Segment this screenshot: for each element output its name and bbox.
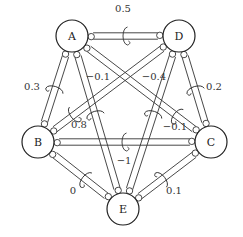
edge-C-E: 0.1 <box>135 150 198 201</box>
node-C: C <box>195 126 227 158</box>
edge-weight-label: −1 <box>117 155 132 166</box>
edge-B-E: 0 <box>49 151 111 200</box>
twist-icon <box>86 109 105 121</box>
node-B: B <box>22 126 54 158</box>
edge-weight-label: 0 <box>70 185 76 196</box>
edge-weight-label: 0.2 <box>206 81 222 92</box>
twist-icon <box>123 27 130 45</box>
nodes-layer: ADBCE <box>22 20 227 225</box>
node-label: A <box>67 30 77 43</box>
edge-B-D: 0.8 <box>51 44 167 134</box>
twist-icon <box>144 109 163 121</box>
twist-icon <box>122 133 129 151</box>
node-label: E <box>119 203 127 216</box>
edge-weight-label: 0.1 <box>166 185 182 196</box>
edge-weight-label: 0.3 <box>24 81 40 92</box>
node-label: C <box>207 136 215 149</box>
edge-weight-label: 0.5 <box>115 3 131 14</box>
connector-circle <box>54 139 60 145</box>
edge-A-B: 0.3 <box>24 51 69 127</box>
edge-D-C: 0.2 <box>181 51 222 126</box>
node-A: A <box>56 20 88 52</box>
graph-diagram: 0.50.30.2−0.1−0.40.8−0.1−100.1 ADBCE <box>0 0 243 237</box>
node-label: B <box>34 136 42 149</box>
twist-icon <box>186 84 205 96</box>
edge-weight-label: −0.1 <box>86 71 110 82</box>
connector-circle <box>157 32 163 38</box>
node-E: E <box>107 193 139 225</box>
edge-B-C: −1 <box>54 133 195 166</box>
edge-weight-label: 0.8 <box>71 119 87 130</box>
node-D: D <box>163 20 195 52</box>
edge-weight-label: −0.4 <box>142 71 166 82</box>
connector-circle <box>189 138 195 144</box>
twist-icon <box>45 84 64 96</box>
edge-weight-label: −0.1 <box>163 121 187 132</box>
connector-circle <box>88 33 94 39</box>
node-label: D <box>175 30 184 43</box>
edge-A-D: 0.5 <box>88 3 163 45</box>
